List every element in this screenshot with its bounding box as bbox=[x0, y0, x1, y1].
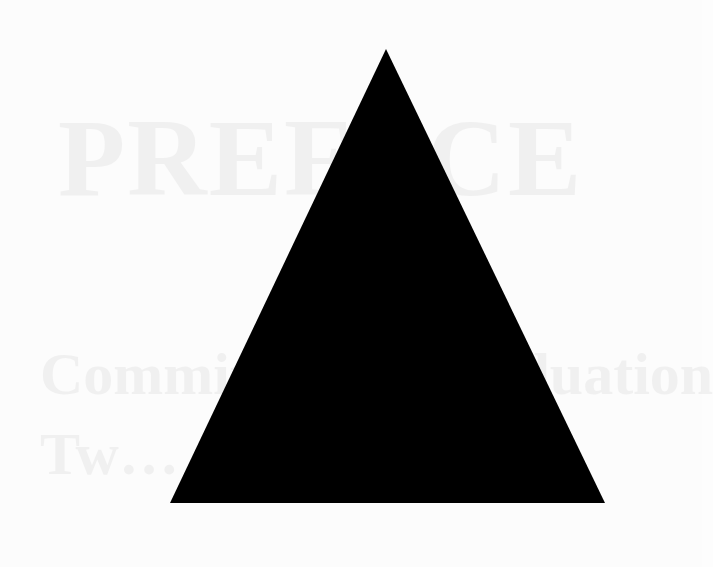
triangle-shape bbox=[170, 49, 605, 503]
